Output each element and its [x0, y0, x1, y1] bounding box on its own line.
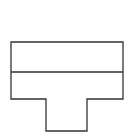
- t-shape-outline: [11, 42, 123, 131]
- t-shape-diagram: [0, 0, 128, 137]
